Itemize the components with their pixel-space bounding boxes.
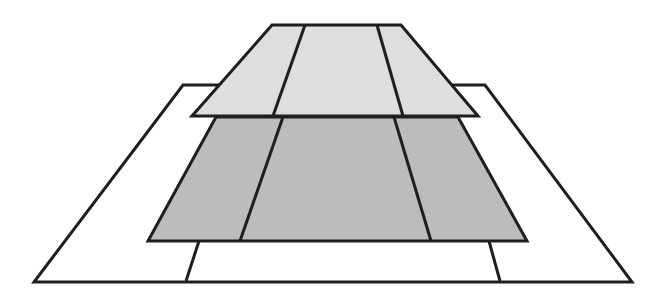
top-layer-shape xyxy=(192,25,478,116)
layered-trapezoid-diagram xyxy=(0,0,667,305)
top-layer xyxy=(192,25,478,116)
